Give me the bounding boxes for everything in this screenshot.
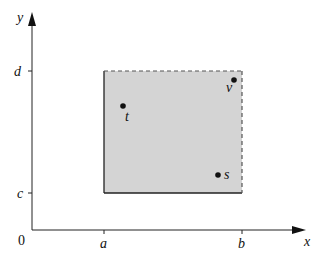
y-tick-label-d: d bbox=[14, 64, 22, 79]
point-label-v: v bbox=[226, 80, 233, 95]
shaded-region bbox=[104, 71, 242, 193]
y-tick-label-c: c bbox=[17, 186, 24, 201]
x-axis-arrow-icon bbox=[292, 226, 306, 234]
origin-label: 0 bbox=[18, 233, 25, 248]
y-axis-arrow-icon bbox=[28, 12, 36, 26]
rectangle-region-diagram: y x 0 d c a b t v s bbox=[0, 0, 327, 262]
point-t bbox=[120, 103, 126, 109]
y-axis-label: y bbox=[15, 10, 24, 25]
point-label-s: s bbox=[224, 167, 230, 182]
x-tick-label-a: a bbox=[100, 236, 107, 251]
x-tick-label-b: b bbox=[238, 236, 245, 251]
x-axis-label: x bbox=[303, 234, 311, 249]
point-s bbox=[215, 172, 221, 178]
